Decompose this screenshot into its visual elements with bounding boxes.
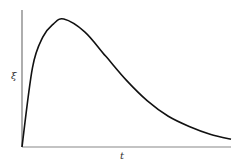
chart-area [0, 0, 245, 163]
response-curve [22, 19, 231, 147]
x-axis-label: t [120, 150, 124, 161]
y-axis-label: ξ [11, 70, 17, 81]
